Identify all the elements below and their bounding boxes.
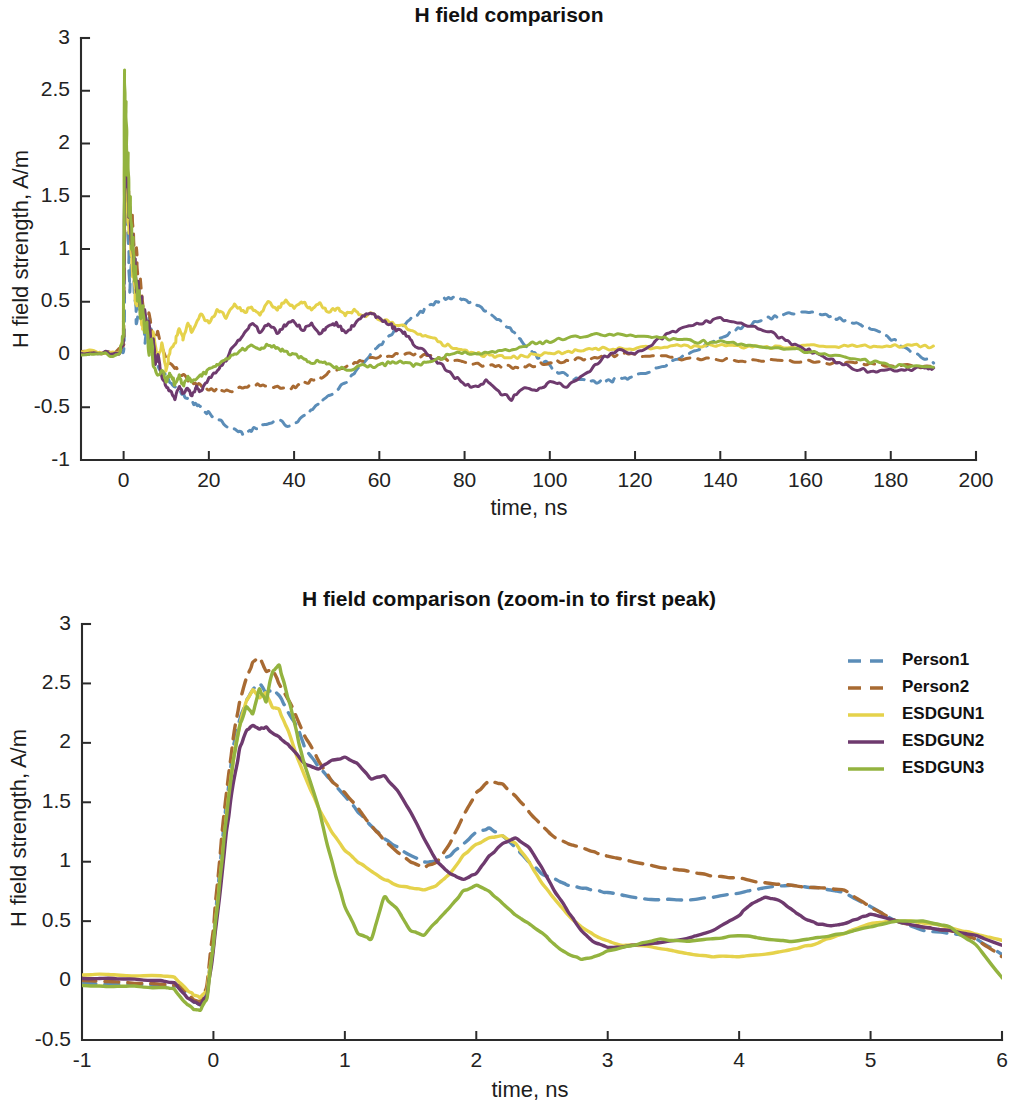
x-tick-label: 80	[453, 468, 476, 491]
x-tick-label: 200	[958, 468, 993, 491]
x-tick-label: 3	[602, 1048, 614, 1071]
legend-label-esdgun2: ESDGUN2	[902, 731, 984, 750]
x-tick-label: 160	[788, 468, 823, 491]
x-tick-label: 20	[197, 468, 220, 491]
x-tick-label: 0	[208, 1048, 220, 1071]
y-tick-label: 2	[58, 130, 70, 153]
x-tick-label: 100	[532, 468, 567, 491]
x-tick-label: 0	[118, 468, 130, 491]
y-tick-label: 1.5	[41, 183, 70, 206]
y-tick-label: 1.5	[42, 789, 71, 812]
chart-top-plot-area: -1-0.500.511.522.53020406080100120140160…	[34, 25, 994, 492]
legend-label-person2: Person2	[902, 677, 969, 696]
legend-label-person1: Person1	[902, 650, 969, 669]
chart-bottom-x-axis-label: time, ns	[491, 1077, 568, 1102]
chart-top-canvas: H field comparison -1-0.500.511.522.5302…	[0, 0, 1018, 556]
series-line-person2	[81, 174, 934, 392]
y-tick-label: 2	[59, 729, 71, 752]
x-tick-label: 4	[733, 1048, 745, 1071]
y-tick-label: 0.5	[41, 288, 70, 311]
y-tick-label: 2.5	[41, 77, 70, 100]
y-tick-label: -0.5	[34, 394, 70, 417]
y-tick-label: 3	[58, 25, 70, 48]
x-tick-label: 60	[368, 468, 391, 491]
series-line-esdgun1	[81, 130, 934, 371]
series-layer	[82, 657, 1002, 1010]
series-line-person1	[81, 154, 934, 435]
chart-bottom-y-axis-label: H field strength, A/m	[6, 729, 31, 927]
y-tick-label: 0	[59, 967, 71, 990]
chart-bottom-title: H field comparison (zoom-in to first pea…	[302, 587, 716, 610]
y-tick-label: 1	[58, 236, 70, 259]
x-tick-label: 40	[282, 468, 305, 491]
y-tick-label: -0.5	[35, 1027, 71, 1050]
y-tick-label: 0.5	[42, 908, 71, 931]
legend-label-esdgun1: ESDGUN1	[902, 704, 984, 723]
chart-bottom-canvas: H field comparison (zoom-in to first pea…	[0, 556, 1018, 1113]
chart-top-x-axis-label: time, ns	[490, 495, 567, 520]
legend-label-esdgun3: ESDGUN3	[902, 758, 984, 777]
x-tick-label: 140	[703, 468, 738, 491]
chart-legend: Person1Person2ESDGUN1ESDGUN2ESDGUN3	[848, 650, 984, 777]
x-tick-label: 2	[470, 1048, 482, 1071]
y-tick-label: 3	[59, 611, 71, 634]
x-tick-label: 180	[873, 468, 908, 491]
x-tick-label: 6	[996, 1048, 1008, 1071]
x-tick-label: -1	[73, 1048, 92, 1071]
chart-h-field-comparison-zoom: H field comparison (zoom-in to first pea…	[0, 556, 1018, 1113]
chart-bottom-plot-area: -0.500.511.522.53-10123456	[35, 611, 1008, 1072]
series-line-esdgun3	[81, 70, 934, 386]
chart-h-field-comparison: H field comparison -1-0.500.511.522.5302…	[0, 0, 1018, 556]
y-tick-label: 2.5	[42, 670, 71, 693]
y-tick-label: 1	[59, 848, 71, 871]
x-tick-label: 5	[865, 1048, 877, 1071]
y-tick-label: 0	[58, 341, 70, 364]
series-line-esdgun2	[81, 142, 934, 400]
x-tick-label: 120	[618, 468, 653, 491]
x-tick-label: 1	[339, 1048, 351, 1071]
chart-top-title: H field comparison	[414, 3, 603, 26]
y-tick-label: -1	[51, 447, 70, 470]
series-layer	[81, 70, 934, 435]
series-line-person2	[82, 657, 1002, 1001]
chart-top-y-axis-label: H field strength, A/m	[8, 150, 33, 348]
